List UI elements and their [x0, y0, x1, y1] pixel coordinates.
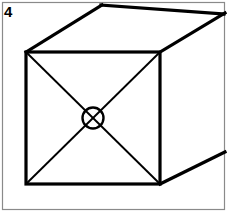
figure-panel: 4	[0, 0, 230, 220]
figure-number-label: 4	[4, 4, 12, 20]
cube-diagram	[0, 0, 230, 220]
